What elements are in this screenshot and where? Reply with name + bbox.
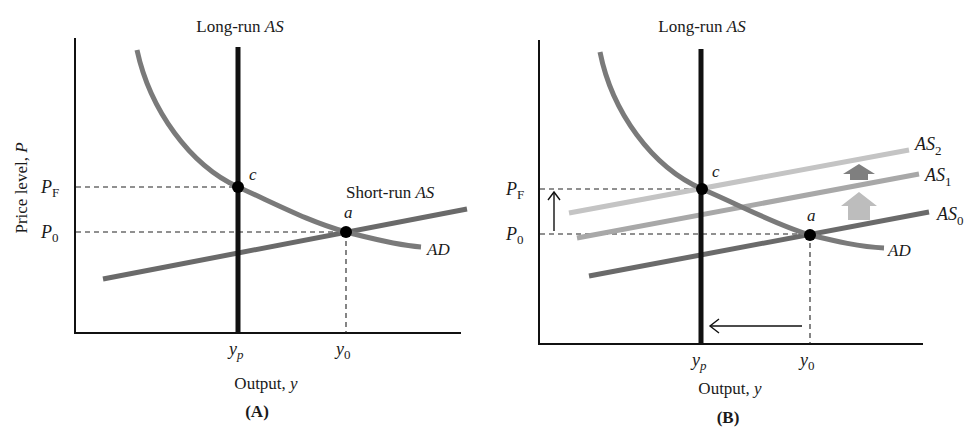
panel-b-ad-curve [600, 52, 884, 248]
shift-up-arrow-dark-icon [843, 164, 875, 180]
panel-b-x-axis-label: Output, y [698, 379, 762, 398]
panel-b-point-c [696, 183, 708, 195]
panel-a-yp-label: yp [227, 339, 244, 362]
panel-a: Long-run AS Price level, P c a Short-run… [12, 17, 467, 421]
panel-a-point-a [340, 226, 352, 238]
panel-a-short-run-as-label: Short-run AS [346, 183, 435, 202]
panel-b-y0-label: y0 [798, 350, 815, 373]
panel-b-pf-label: PF [505, 179, 524, 202]
panel-a-label: (A) [245, 402, 269, 421]
panel-b-point-a-label: a [807, 206, 816, 225]
panel-a-x-axis-label: Output, y [234, 374, 298, 393]
panel-b-as1-label: AS1 [924, 165, 952, 189]
panel-b-point-c-label: c [712, 162, 720, 181]
panel-a-y0-label: y0 [334, 339, 351, 362]
panel-a-p0-label: P0 [40, 222, 59, 245]
panel-b-point-a [804, 229, 816, 241]
panel-b-yp-label: yp [690, 350, 707, 373]
panel-a-point-a-label: a [344, 203, 353, 222]
panel-b-p0-label: P0 [505, 224, 524, 247]
panel-b-as0-label: AS0 [936, 204, 964, 228]
shift-up-arrow-light-icon [841, 192, 877, 220]
panel-a-point-c-label: c [249, 165, 257, 184]
panel-a-title: Long-run AS [196, 17, 284, 36]
panel-a-y-axis-label: Price level, P [12, 142, 31, 233]
panel-b-title: Long-run AS [658, 17, 746, 36]
panel-a-point-c [232, 181, 244, 193]
panel-b-as2-label: AS2 [914, 134, 942, 158]
diagram-canvas: Long-run AS Price level, P c a Short-run… [0, 0, 977, 446]
panel-b: Long-run AS c a AS2 AS1 [505, 17, 964, 427]
panel-b-label: (B) [717, 408, 740, 427]
panel-a-ad-curve [137, 50, 421, 247]
panel-b-as0-line [589, 212, 929, 276]
panel-b-ad-label: AD [887, 241, 911, 260]
panel-a-pf-label: PF [40, 177, 59, 200]
panel-a-ad-label: AD [426, 240, 450, 259]
